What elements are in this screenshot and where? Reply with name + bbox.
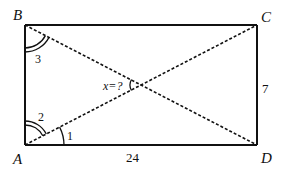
- geometry-diagram: B A C D 7 24 1 2 3 x=?: [0, 0, 285, 174]
- side-label-ad: 24: [126, 150, 140, 165]
- angle-label-x: x=?: [102, 79, 122, 93]
- vertex-label-d: D: [260, 150, 272, 166]
- angle-1-arc: [60, 127, 64, 145]
- vertex-label-b: B: [13, 7, 22, 23]
- angle-label-3: 3: [35, 52, 41, 66]
- vertex-label-a: A: [12, 151, 23, 167]
- side-label-cd: 7: [262, 81, 269, 96]
- angle-label-1: 1: [67, 129, 73, 143]
- angle-x-arc: [130, 80, 131, 91]
- vertex-label-c: C: [261, 9, 272, 25]
- angle-label-2: 2: [38, 110, 44, 124]
